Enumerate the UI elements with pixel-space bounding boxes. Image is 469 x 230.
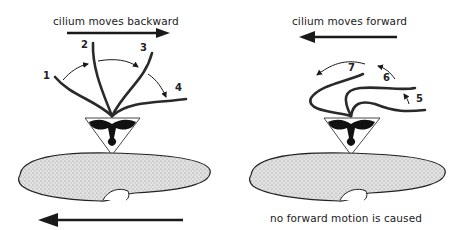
label-position-1: 1 [43, 70, 50, 81]
arrow-left-icon [299, 31, 397, 43]
label-position-4: 4 [175, 82, 182, 93]
body-motion-arrow-left-icon [38, 213, 183, 227]
label-position-7: 7 [348, 62, 355, 73]
paramecium-body [19, 153, 211, 201]
label-position-6: 6 [383, 72, 390, 83]
paramecium-body [250, 153, 446, 201]
power-stroke-panel: cilium moves backward [0, 0, 235, 230]
magnified-cilium-base [85, 118, 140, 155]
cilium-recovery-strokes [310, 74, 425, 116]
label-position-3: 3 [140, 42, 147, 53]
arrow-right-icon [67, 28, 170, 38]
label-position-2: 2 [81, 39, 88, 50]
caption-no-forward-motion: no forward motion is caused [270, 212, 422, 224]
power-stroke-drawing [0, 0, 235, 230]
recovery-motion-arrows [317, 62, 409, 104]
magnified-cilium-base [324, 118, 380, 155]
stroke-motion-arrows [63, 60, 166, 97]
recovery-stroke-drawing [235, 0, 469, 230]
recovery-stroke-panel: cilium moves forward [235, 0, 469, 230]
label-position-5: 5 [416, 93, 423, 104]
cilium-strokes [55, 43, 186, 116]
